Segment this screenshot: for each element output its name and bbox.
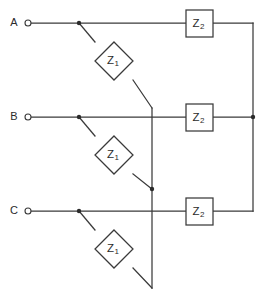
circuit-diagram: Z1 Z1 Z1 Z2 Z2 Z2 A B [0,0,265,301]
wire-branch-c-out [133,268,152,288]
junction-dot-tap-b [77,115,81,119]
terminal-a-ring[interactable] [25,20,31,26]
junction-dot-bus-b [251,115,255,119]
component-z1-b[interactable]: Z1 [95,136,133,174]
terminal-b-ring[interactable] [25,114,31,120]
terminal-a-label: A [10,16,18,28]
component-z2-a[interactable]: Z2 [186,10,213,37]
component-z1-a[interactable]: Z1 [95,42,133,80]
component-z1-c[interactable]: Z1 [95,230,133,268]
terminal-a[interactable]: A [10,16,31,28]
terminal-b[interactable]: B [10,110,31,122]
terminal-c-label: C [10,204,18,216]
wire-branch-b-out [133,174,152,189]
wire-branch-c-in [79,211,95,230]
terminal-b-label: B [10,110,17,122]
terminal-c-ring[interactable] [25,208,31,214]
wire-branch-b-in [79,117,95,136]
junction-dot-tap-c [77,209,81,213]
wire-branch-a-out [133,80,152,108]
component-z2-b[interactable]: Z2 [186,104,213,131]
wire-branch-a-in [79,23,95,42]
component-z2-c[interactable]: Z2 [186,198,213,225]
circuit-canvas: Z1 Z1 Z1 Z2 Z2 Z2 A B [0,0,265,301]
junction-dot-star-mid [150,187,154,191]
junction-dot-tap-a [77,21,81,25]
terminal-c[interactable]: C [10,204,31,216]
